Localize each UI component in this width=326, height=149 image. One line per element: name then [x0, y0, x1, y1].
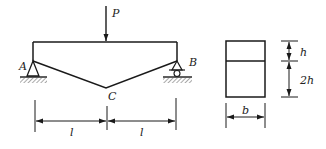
- load-label: P: [111, 7, 120, 20]
- support-a-label: A: [18, 60, 27, 73]
- span-label-right: l: [140, 126, 144, 139]
- cross-section: [226, 41, 265, 97]
- span-label-left: l: [70, 126, 74, 139]
- span-dimension-lines: [35, 98, 176, 132]
- width-label: b: [242, 104, 249, 117]
- support-b-label: B: [188, 56, 197, 69]
- beam-frame: [33, 42, 177, 88]
- point-c-label: C: [108, 90, 117, 103]
- height-top-label: h: [300, 46, 307, 59]
- height-bottom-label: 2h: [299, 74, 314, 87]
- height-dimension: [281, 41, 298, 97]
- beam-diagram: P A B C l l: [0, 0, 326, 149]
